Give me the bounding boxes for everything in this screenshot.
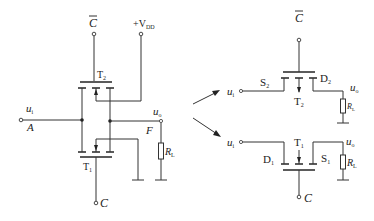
rt-control-terminal	[297, 38, 301, 42]
control-bar-terminal	[92, 32, 96, 36]
input-junction	[80, 118, 84, 122]
rb-control-terminal	[297, 195, 301, 199]
circuit-diagram: C +VDD T2 ui A uo F	[0, 0, 374, 221]
rl-label: RL	[164, 146, 175, 158]
rb-load-resistor	[341, 155, 346, 169]
t2-body-arrow	[94, 89, 98, 95]
node-f-label: F	[145, 124, 153, 136]
rb-rl-label: RL	[346, 157, 357, 169]
rt-drain-label: D2	[320, 72, 331, 85]
rb-source-label: S1	[321, 152, 330, 165]
rt-output-label: uo	[350, 81, 359, 94]
arrow-down	[193, 118, 217, 134]
rt-load-resistor	[341, 99, 346, 113]
t1-body-arrow	[94, 145, 98, 151]
rb-input-label: ui	[227, 136, 235, 149]
left-transmission-gate: C +VDD T2 ui A uo F	[19, 16, 175, 210]
rt-input-terminal	[239, 89, 242, 92]
load-resistor	[159, 143, 164, 159]
right-bottom-nmos-path: T1 ui D1 S1 uo RL C	[227, 135, 357, 205]
rt-control-bar-label: C	[295, 11, 304, 25]
equivalence-arrows	[193, 90, 221, 137]
rt-source-label: S2	[260, 76, 269, 89]
t2-label: T2	[97, 69, 106, 81]
rt-input-label: ui	[227, 85, 235, 98]
rt-rl-label: RL	[346, 102, 355, 112]
control-bar-label: C	[89, 16, 98, 30]
rb-output-label: uo	[346, 135, 355, 148]
input-label: ui	[26, 102, 34, 115]
vdd-terminal	[139, 32, 143, 36]
arrow-up	[193, 92, 217, 104]
arrow-up-head	[212, 90, 220, 96]
control-label: C	[100, 196, 109, 210]
rb-control-label: C	[304, 191, 313, 205]
output-terminal	[159, 119, 162, 122]
rb-transistor-label: T1	[294, 136, 304, 149]
control-terminal	[94, 201, 98, 205]
input-terminal	[19, 118, 23, 122]
vdd-label: +VDD	[133, 18, 155, 30]
t1-label: T1	[83, 161, 92, 173]
output-label: uo	[153, 105, 162, 118]
rb-input-terminal	[239, 140, 242, 143]
arrow-down-head	[213, 130, 221, 137]
rb-body-arrow	[297, 157, 301, 163]
right-top-pmos-path: C T2 ui S2 D2 uo RL	[227, 11, 359, 123]
rb-drain-label: D1	[263, 153, 274, 166]
rt-transistor-label: T2	[294, 95, 304, 108]
rt-body-arrow	[297, 87, 301, 93]
node-a-label: A	[26, 121, 34, 133]
